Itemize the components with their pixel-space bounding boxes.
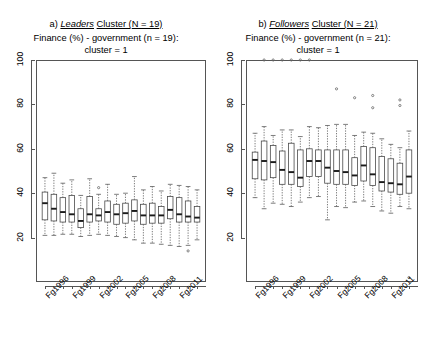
- x-axis-tick: [117, 286, 118, 289]
- x-axis-tick: [143, 286, 144, 289]
- y-axis-tick: [241, 104, 245, 105]
- x-axis-tick: [400, 286, 401, 289]
- y-axis-label: 40: [15, 182, 25, 202]
- x-axis-tick: [45, 286, 46, 289]
- y-axis-label: 100: [225, 49, 235, 69]
- y-axis-label: 60: [15, 138, 25, 158]
- y-axis-label: 40: [225, 182, 235, 202]
- x-axis-tick: [99, 286, 100, 289]
- x-axis-tick: [391, 286, 392, 289]
- x-axis-tick: [90, 286, 91, 289]
- x-axis-tick: [346, 286, 347, 289]
- x-axis-tick: [188, 286, 189, 289]
- x-axis-tick: [327, 286, 328, 289]
- x-axis-tick: [364, 286, 365, 289]
- x-axis-tick: [81, 286, 82, 289]
- x-axis-tick: [282, 286, 283, 289]
- x-axis-tick: [63, 286, 64, 289]
- x-axis-tick: [255, 286, 256, 289]
- y-axis-tick: [31, 238, 35, 239]
- y-axis-label: 80: [15, 93, 25, 113]
- x-axis-tick: [161, 286, 162, 289]
- x-axis-tick: [264, 286, 265, 289]
- y-axis-tick: [31, 104, 35, 105]
- x-axis-tick: [108, 286, 109, 289]
- x-axis-tick: [197, 286, 198, 289]
- x-axis-tick: [337, 286, 338, 289]
- figure-canvas: a) Leaders Cluster (N = 19) Finance (%) …: [0, 0, 424, 340]
- panel-followers: b) Followers Cluster (N = 21) Finance (%…: [212, 0, 424, 340]
- x-axis-tick: [179, 286, 180, 289]
- x-axis-tick: [152, 286, 153, 289]
- x-axis-tick: [291, 286, 292, 289]
- y-axis-tick: [31, 60, 35, 61]
- y-axis-tick: [31, 149, 35, 150]
- x-axis-tick: [318, 286, 319, 289]
- x-axis-tick: [382, 286, 383, 289]
- x-axis-tick: [273, 286, 274, 289]
- y-axis-tick: [241, 238, 245, 239]
- y-axis-tick: [241, 60, 245, 61]
- x-axis-tick: [355, 286, 356, 289]
- x-axis-tick: [309, 286, 310, 289]
- x-axis-tick: [54, 286, 55, 289]
- y-axis-label: 20: [15, 227, 25, 247]
- x-axis-tick: [134, 286, 135, 289]
- y-axis-tick: [241, 149, 245, 150]
- x-axis-tick: [373, 286, 374, 289]
- y-axis-tick: [31, 193, 35, 194]
- x-axis-tick: [125, 286, 126, 289]
- y-axis-label: 100: [15, 49, 25, 69]
- x-axis-tick: [300, 286, 301, 289]
- y-axis-label: 80: [225, 93, 235, 113]
- y-axis-label: 20: [225, 227, 235, 247]
- x-axis-tick: [170, 286, 171, 289]
- y-axis-label: 60: [225, 138, 235, 158]
- x-axis-tick: [409, 286, 410, 289]
- panel-leaders: a) Leaders Cluster (N = 19) Finance (%) …: [0, 0, 212, 340]
- y-axis-tick: [241, 193, 245, 194]
- x-axis-tick: [72, 286, 73, 289]
- top-crop-strip: [0, 0, 424, 7]
